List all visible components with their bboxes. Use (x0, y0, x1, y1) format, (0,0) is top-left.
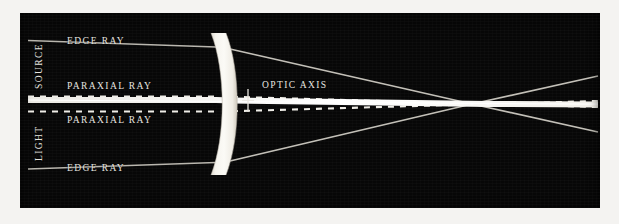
optic-axis-group (28, 100, 598, 105)
optics-diagram-figure: SOURCE LIGHT EDGE RAY PARAXIAL RAY PARAX… (20, 13, 600, 208)
optic-axis-tick-marker (242, 89, 254, 112)
label-edge-ray-top: EDGE RAY (67, 36, 125, 46)
label-paraxial-ray-top: PARAXIAL RAY (67, 81, 152, 91)
paraxial-focus-point (486, 102, 489, 105)
label-optic-axis: OPTIC AXIS (262, 80, 327, 90)
biconvex-lens (211, 33, 237, 175)
edge-ray-upper-refracted (230, 49, 598, 132)
label-edge-ray-bottom: EDGE RAY (67, 163, 125, 173)
edge-focus-point (470, 102, 473, 105)
label-light-source-top: SOURCE (34, 43, 44, 89)
screenshot-root: SOURCE LIGHT EDGE RAY PARAXIAL RAY PARAX… (0, 0, 619, 224)
label-light-source-bottom: LIGHT (34, 126, 44, 162)
lens-body (211, 33, 237, 175)
label-paraxial-ray-bottom: PARAXIAL RAY (67, 115, 152, 125)
